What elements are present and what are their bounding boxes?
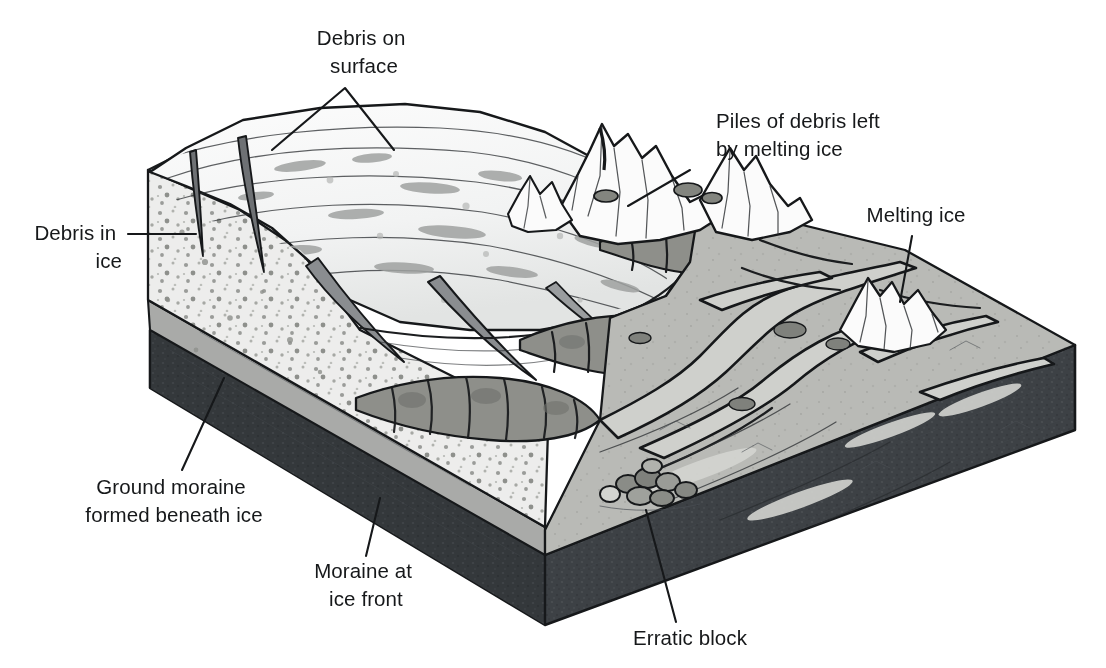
label-debris-on-surface: Debris on surface [317,26,411,77]
figure-canvas: Debris on surface Piles of debris left b… [0,0,1106,668]
label-erratic-block: Erratic block [633,626,748,649]
label-debris-in-ice: Debris in ice [34,221,122,272]
label-moraine-at-ice-front: Moraine at ice front [314,559,418,610]
block-diagram-illustration: Debris on surface Piles of debris left b… [0,0,1106,668]
label-piles-of-debris: Piles of debris left by melting ice [716,109,886,160]
label-ground-moraine: Ground moraine formed beneath ice [85,475,262,526]
label-melting-ice: Melting ice [866,203,965,226]
